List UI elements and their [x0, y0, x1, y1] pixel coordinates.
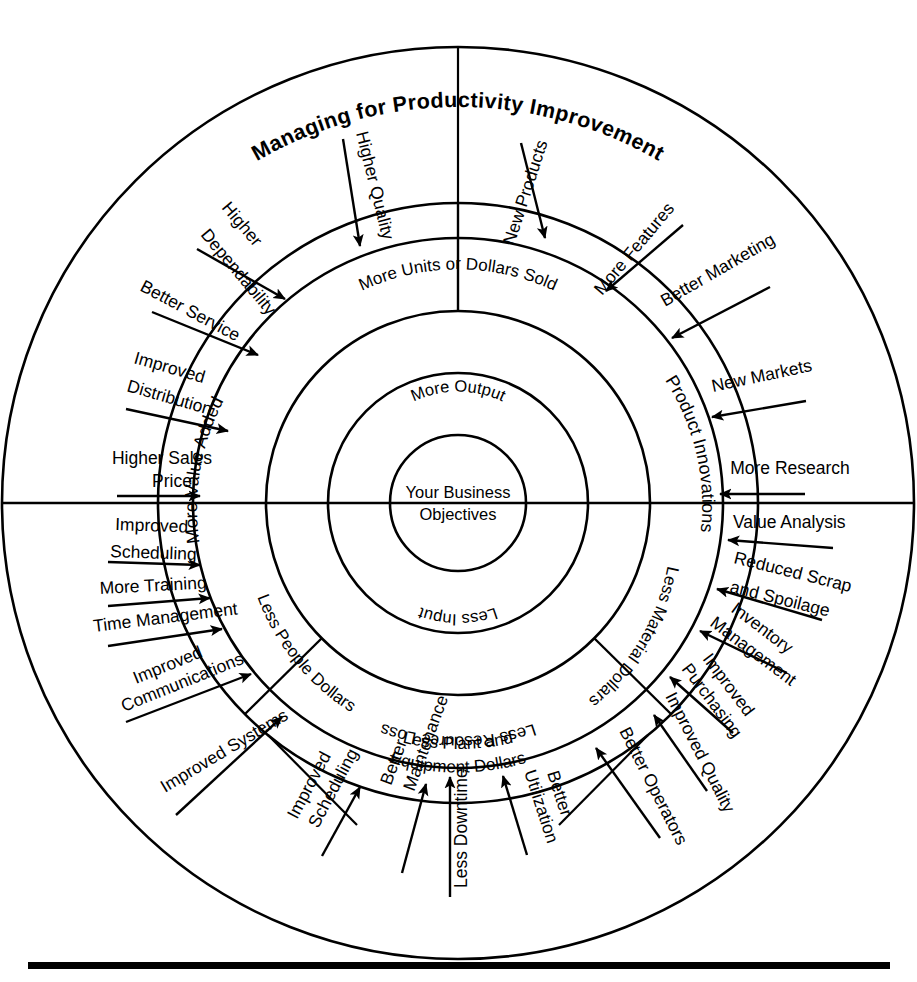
driver-new-products: New Products	[499, 137, 552, 247]
core-label-line2: Objectives	[419, 505, 496, 523]
bottom-rule	[28, 962, 890, 969]
driver-improved-systems: Improved Systems	[157, 705, 292, 815]
better-utilization-arrow	[503, 776, 527, 855]
higher-sales-price-label-1: Higher Sales	[112, 448, 212, 468]
driver-better-maintenance: Better Maintenance	[376, 692, 452, 873]
quadrant-less-people-dollars: Less People Dollars	[253, 592, 359, 716]
driver-more-research: More Research	[720, 458, 850, 494]
less-downtime-label: Less Downtime	[451, 768, 471, 888]
core-label-line1: Your Business	[406, 483, 511, 501]
higher-sales-price-label-2: Price	[152, 471, 192, 491]
improved-scheduling-left-label-2: Scheduling	[110, 541, 197, 564]
less-input-label: Less Input	[415, 604, 500, 629]
quadrant-product-innovations: Product Innovations	[662, 372, 719, 534]
driver-improved-communications: Improved Communications	[118, 642, 251, 722]
higher-dependability-arrow	[197, 249, 285, 299]
more-output-label: More Output	[408, 377, 509, 405]
driver-less-downtime: Less Downtime	[450, 768, 471, 897]
improved-scheduling-left-label-1: Improved	[115, 514, 189, 537]
driver-better-marketing: Better Marketing	[657, 229, 778, 338]
value-analysis-label: Value Analysis	[733, 512, 846, 532]
more-features-label: More Features	[590, 198, 679, 298]
improved-systems-label: Improved Systems	[157, 705, 292, 797]
more-training-label: More Training	[99, 572, 207, 598]
driver-value-analysis: Value Analysis	[728, 512, 846, 548]
driver-better-operators: Better Operators	[596, 724, 692, 849]
new-markets-label: New Markets	[710, 355, 814, 396]
value-analysis-arrow	[728, 540, 833, 548]
quadrant-less-material-dollars: Less Material Dollars	[585, 565, 682, 711]
driver-more-features: More Features	[590, 198, 683, 298]
driver-more-training: More Training	[99, 572, 210, 606]
driver-higher-dependability: Higher Dependability	[197, 198, 285, 319]
higher-quality-label: Higher Quality	[352, 129, 398, 242]
diagram-canvas: Managing for Productivity Improvement Yo…	[0, 0, 917, 982]
driver-better-utilization: Better Utilization	[503, 767, 577, 855]
better-marketing-label: Better Marketing	[657, 229, 778, 311]
new-markets-arrow	[712, 401, 806, 417]
productivity-wheel-diagram: Managing for Productivity Improvement Yo…	[0, 0, 917, 982]
more-research-label: More Research	[730, 458, 850, 478]
driver-higher-quality: Higher Quality	[343, 129, 398, 246]
